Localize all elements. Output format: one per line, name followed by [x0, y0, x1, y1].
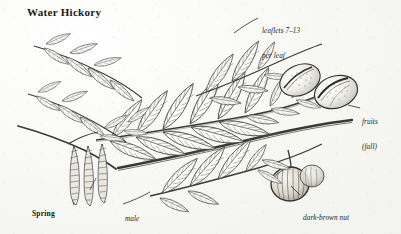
annotation-male-flowers-line1: male [125, 215, 147, 223]
leader-line-leaflets [234, 18, 258, 33]
annotation-male-flowers: male flowers [125, 198, 147, 234]
left-upper-leaf-cluster [34, 32, 142, 105]
annotation-fruits: fruits (fall) [362, 101, 378, 168]
annotation-nut-line1: dark-brown nut [303, 214, 355, 222]
annotation-leaflets-line2: per leaf [262, 52, 300, 60]
annotation-fruits-line1: fruits [362, 118, 378, 126]
annotation-fruits-line2: (fall) [362, 143, 378, 151]
leader-line-fruits [348, 105, 360, 108]
flattened-nut [257, 150, 324, 201]
annotation-nut: dark-brown nut strongly flattened [303, 197, 355, 234]
illustration-plate: Water Hickory leaflets 7–13 per leaf fru… [0, 0, 401, 234]
annotation-branchlet-line1: Spring [32, 210, 65, 219]
male-catkins [70, 144, 107, 206]
annotation-leaflets-line1: leaflets 7–13 [262, 27, 300, 35]
annotation-leaflets: leaflets 7–13 per leaf [262, 10, 300, 77]
annotation-spring-branchlet: Spring Branchlet [32, 193, 65, 234]
figure-title: Water Hickory [27, 6, 101, 18]
